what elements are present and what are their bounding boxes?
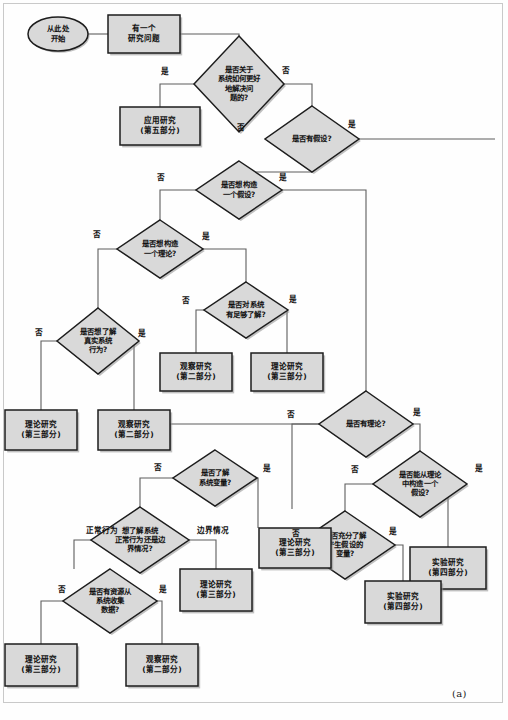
flow-edge-16 xyxy=(413,424,420,451)
flow-edge-3 xyxy=(284,84,312,106)
node-label-d_has_hyp: 是否有假设? xyxy=(291,134,332,143)
node-label-t_thy_4: 理论研究(第三部分) xyxy=(196,579,236,598)
edge-label-16: 否 xyxy=(351,465,359,474)
flow-edge-17 xyxy=(140,478,173,507)
edge-label-23: 是 xyxy=(159,584,167,594)
flow-edge-12 xyxy=(41,341,57,410)
flow-edge-1 xyxy=(180,34,239,36)
edge-label-12: 否 xyxy=(287,410,295,419)
flow-node-t_obs_3[interactable]: 观察研究(第二部分) xyxy=(126,644,200,688)
flow-edge-22 xyxy=(189,540,216,569)
flow-node-d_build_hyp[interactable]: 是否能从理论中构造一个假设? xyxy=(373,451,469,519)
node-label-d_want_hyp: 是否想构造一个假设? xyxy=(220,180,257,198)
node-label-t_obs_1: 观察研究(第二部分) xyxy=(176,361,216,380)
node-label-t_exp_2: 实验研究(第四部分) xyxy=(383,591,423,610)
edge-label-7: 是 xyxy=(202,231,210,241)
flow-node-t_applied[interactable]: 应用研究(第五部分) xyxy=(120,107,202,147)
edge-label-22: 否 xyxy=(58,585,66,594)
node-label-t_thy_3: 理论研究(第三部分) xyxy=(275,537,315,556)
flow-edge-18 xyxy=(257,478,258,528)
flow-node-t_thy_1[interactable]: 理论研究(第三部分) xyxy=(251,353,325,393)
flow-node-t_thy_4[interactable]: 理论研究(第三部分) xyxy=(180,569,254,613)
flow-node-d_want_hyp[interactable]: 是否想构造一个假设? xyxy=(196,161,284,221)
edge-label-13: 是 xyxy=(413,407,421,417)
flow-node-d_want_thy[interactable]: 是否想构造一个理论? xyxy=(117,220,205,280)
flowchart-canvas: 从此处开始有一个研究问题是否关于系统如何更好地解决问题的?应用研究(第五部分)是… xyxy=(0,0,508,720)
flow-edge-13 xyxy=(134,341,139,410)
flow-node-t_obs_1[interactable]: 观察研究(第二部分) xyxy=(160,353,234,393)
node-label-d_know_sys: 是否对系统有足够了解? xyxy=(226,300,266,318)
flow-edge-15 xyxy=(292,424,319,509)
node-label-q_problem: 有一个研究问题 xyxy=(128,23,160,42)
edge-label-21: 边界情况 xyxy=(196,525,229,535)
flow-node-d_know_sys[interactable]: 是否对系统有足够了解? xyxy=(204,282,290,340)
flow-node-d_solve[interactable]: 是否关于系统如何更好地解决问题的? xyxy=(194,36,286,134)
flow-edge-21 xyxy=(74,540,91,569)
edge-label-19: 是 xyxy=(389,526,397,536)
node-label-t_thy_2: 理论研究(第三部分) xyxy=(21,419,61,438)
flow-edge-26 xyxy=(157,601,162,644)
flow-node-t_exp_2[interactable]: 实验研究(第四部分) xyxy=(365,581,443,625)
node-label-d_has_thy: 是否有理论? xyxy=(345,419,386,428)
flow-node-t_thy_2[interactable]: 理论研究(第三部分) xyxy=(5,410,79,452)
flow-node-d_real_beh[interactable]: 是否想了解真实系统行为? xyxy=(57,308,141,376)
node-label-t_exp_1: 实验研究(第四部分) xyxy=(428,557,468,576)
flow-node-t_obs_2[interactable]: 观察研究(第二部分) xyxy=(98,410,172,452)
edge-label-11: 是 xyxy=(138,328,146,338)
edge-label-9: 是 xyxy=(289,294,297,304)
node-label-t_obs_2: 观察研究(第二部分) xyxy=(114,419,154,438)
flow-edge-2 xyxy=(160,84,194,107)
flow-node-d_has_thy[interactable]: 是否有理论? xyxy=(319,391,415,459)
flow-node-d_know_var[interactable]: 是否了解系统变量? xyxy=(173,450,259,508)
flow-edge-11 xyxy=(287,310,288,353)
node-label-t_applied: 应用研究(第五部分) xyxy=(140,115,180,134)
edge-label-15: 是 xyxy=(263,463,271,473)
edge-label-17: 是 xyxy=(475,463,483,473)
flow-edge-19 xyxy=(345,484,373,511)
flow-node-q_problem[interactable]: 有一个研究问题 xyxy=(108,15,182,55)
figure-caption: (a) xyxy=(452,688,467,699)
edge-label-8: 否 xyxy=(182,296,190,305)
flowchart-nodes: 从此处开始有一个研究问题是否关于系统如何更好地解决问题的?应用研究(第五部分)是… xyxy=(5,15,488,688)
flow-edge-9 xyxy=(203,249,246,282)
node-label-t_obs_3: 观察研究(第二部分) xyxy=(142,654,182,673)
node-label-d_want_thy: 是否想构造一个理论? xyxy=(141,239,178,257)
node-label-t_thy_5: 理论研究(第三部分) xyxy=(21,654,61,673)
flow-edge-6 xyxy=(160,190,196,220)
node-label-d_know_var: 是否了解系统变量? xyxy=(199,468,232,486)
edge-label-18: 否 xyxy=(292,529,300,538)
flow-edge-25 xyxy=(41,601,63,644)
edge-label-4: 否 xyxy=(157,173,165,182)
edge-label-10: 否 xyxy=(35,328,43,337)
node-label-t_thy_1: 理论研究(第三部分) xyxy=(267,361,307,380)
flow-node-d_has_hyp[interactable]: 是否有假设? xyxy=(265,106,361,174)
flow-edge-14 xyxy=(170,424,319,450)
flow-edge-24 xyxy=(395,545,403,581)
flow-node-d_resource[interactable]: 是否有资源从系统收集数据? xyxy=(63,569,159,635)
edge-label-0: 是 xyxy=(161,66,169,76)
edge-label-1: 否 xyxy=(282,66,290,75)
edge-label-2: 否 xyxy=(237,123,245,132)
flow-node-t_thy_5[interactable]: 理论研究(第三部分) xyxy=(5,644,79,688)
edge-label-20: 正常行为 xyxy=(86,525,118,535)
flow-node-start[interactable]: 从此处开始 xyxy=(28,17,90,53)
edge-label-3: 是 xyxy=(348,119,356,129)
flow-node-d_norm_edge[interactable]: 想了解系统正常行为还是边界情况? xyxy=(91,507,191,575)
flow-edge-10 xyxy=(196,310,204,353)
flow-edge-8 xyxy=(98,249,117,308)
edge-label-5: 是 xyxy=(279,172,287,182)
figure-page: 从此处开始有一个研究问题是否关于系统如何更好地解决问题的?应用研究(第五部分)是… xyxy=(0,0,508,720)
edge-label-14: 否 xyxy=(154,463,162,472)
edge-label-6: 否 xyxy=(93,230,101,239)
